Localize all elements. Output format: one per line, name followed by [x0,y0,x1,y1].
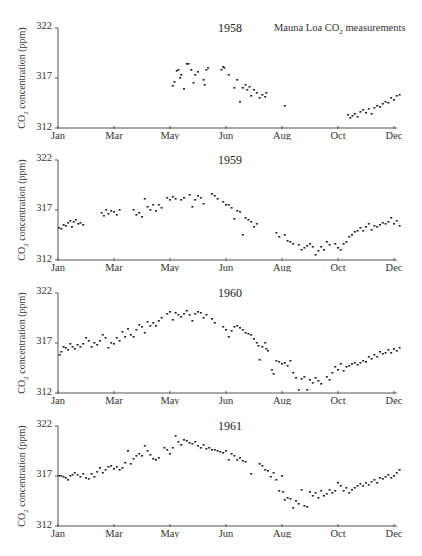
data-point [113,468,115,470]
data-point [135,214,137,216]
plot-area-1960: JanMarMayJunAugOctDecCO2 concentration (… [0,265,422,405]
data-point [312,495,314,497]
xtick-aug: Aug [273,528,292,538]
data-point [144,445,146,447]
panel-1959: JanMarMayJunAugOctDecCO2 concentration (… [0,132,422,265]
data-point [347,114,349,116]
data-point [79,476,81,478]
data-point [357,230,359,232]
data-point [74,348,76,350]
data-point [217,198,219,200]
data-point [345,487,347,489]
data-point [225,204,227,206]
data-point [149,209,151,211]
data-point [396,350,398,352]
data-point [124,462,126,464]
data-point [247,219,249,221]
data-point [99,467,101,469]
data-point [306,506,308,508]
data-point [191,320,193,322]
data-point [205,69,207,71]
data-point [119,469,121,471]
data-point [354,362,356,364]
data-point [289,241,291,243]
data-point [116,337,118,339]
data-point [102,334,104,336]
data-point [284,362,286,364]
data-point [82,473,84,475]
ytick-312: 312 [30,386,52,397]
data-point [261,465,263,467]
data-point [147,450,149,452]
data-point [107,213,109,215]
data-point [298,389,300,391]
data-point [228,204,230,206]
data-point [173,81,175,83]
data-point [320,246,322,248]
data-point [317,497,319,499]
data-point [239,457,241,459]
data-point [193,82,195,84]
data-point [91,473,93,475]
data-point [179,77,181,79]
data-point [82,224,84,226]
y-axis-label: CO2 concentration (ppm) [16,292,30,393]
data-point [110,465,112,467]
data-point [396,95,398,97]
data-point [72,346,74,348]
data-point [373,479,375,481]
data-point [278,490,280,492]
data-point [373,225,375,227]
data-point [88,340,90,342]
data-point [158,457,160,459]
data-point [233,326,235,328]
data-point [105,337,107,339]
data-point [343,490,345,492]
data-point [382,478,384,480]
data-point [166,313,168,315]
data-point [236,79,238,81]
data-point [169,453,171,455]
data-point [362,485,364,487]
data-point [329,489,331,491]
data-point [334,243,336,245]
panel-1961: JanMarMayJunAugOctDecCO2 concentration (… [0,398,422,531]
data-point [228,74,230,76]
data-point [138,453,140,455]
data-point [203,203,205,205]
data-point [323,249,325,251]
data-point [231,207,233,209]
data-point [359,111,361,113]
data-point [99,340,101,342]
data-point [256,92,258,94]
data-point [245,332,247,334]
data-point [236,459,238,461]
data-point [326,241,328,243]
data-point [194,74,196,76]
data-point [58,475,60,477]
data-point [309,243,311,245]
data-point [287,240,289,242]
data-point [354,487,356,489]
data-point [130,334,132,336]
data-point [275,232,277,234]
data-point [249,86,251,88]
data-point [264,342,266,344]
data-point [329,244,331,246]
data-point [127,328,129,330]
data-point [326,376,328,378]
data-point [93,342,95,344]
data-point [225,329,227,331]
data-point [155,210,157,212]
y-axis-label: CO2 concentration (ppm) [16,425,30,526]
data-point [138,324,140,326]
data-point [103,215,105,217]
data-point [359,227,361,229]
data-point [65,347,67,349]
data-point [315,377,317,379]
data-point [371,113,373,115]
data-point [396,220,398,222]
data-point [217,450,219,452]
data-point [180,199,182,201]
data-point [275,360,277,362]
